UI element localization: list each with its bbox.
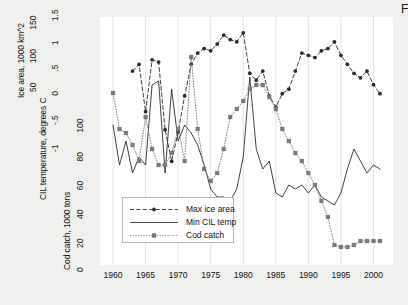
data-point — [137, 62, 141, 66]
legend-label: Max ice area — [186, 203, 235, 216]
data-point — [365, 69, 369, 73]
data-point — [280, 127, 284, 131]
x-tick-2000: 2000 — [358, 270, 388, 280]
data-point — [280, 92, 284, 96]
ice-area-axis-title: Ice area, 1000 km^2 — [16, 23, 26, 98]
data-point — [287, 139, 291, 143]
data-point — [163, 128, 167, 132]
data-point — [170, 159, 174, 163]
data-point — [209, 179, 213, 183]
data-point — [274, 107, 278, 111]
data-point — [300, 51, 304, 55]
data-point — [248, 71, 252, 75]
data-point — [332, 243, 336, 247]
legend-label: Cod catch — [186, 229, 224, 242]
plot-area: Max ice areaMin CIL tempCod catch — [100, 17, 393, 265]
data-point — [365, 239, 369, 243]
data-point — [300, 159, 304, 163]
x-tick-1985: 1985 — [261, 270, 291, 280]
data-point — [235, 107, 239, 111]
x-tick-1965: 1965 — [131, 270, 161, 280]
data-point — [241, 31, 245, 35]
legend-label: Min CIL temp — [186, 216, 236, 229]
data-point — [248, 87, 252, 91]
data-point — [215, 171, 219, 175]
data-point — [228, 115, 232, 119]
data-point — [352, 71, 356, 75]
data-point — [209, 49, 213, 53]
data-point — [241, 99, 245, 103]
x-tick-1960: 1960 — [98, 270, 128, 280]
data-point — [163, 163, 167, 167]
data-point — [372, 83, 376, 87]
data-point — [143, 115, 147, 119]
data-point — [293, 151, 297, 155]
x-tick-1980: 1980 — [228, 270, 258, 280]
data-point — [326, 47, 330, 51]
data-point — [378, 92, 382, 96]
data-point — [333, 40, 337, 44]
data-point — [352, 243, 356, 247]
data-point — [358, 239, 362, 243]
legend-key-glyph — [128, 203, 180, 216]
data-point — [339, 53, 343, 57]
legend-square-marker-icon — [152, 233, 156, 237]
data-point — [170, 151, 174, 155]
data-point — [137, 159, 141, 163]
data-point — [150, 58, 154, 62]
ice-area-axis-ticks: 50 100 150 200 — [28, 0, 38, 92]
data-point — [254, 78, 258, 82]
data-point — [117, 127, 121, 131]
data-point — [157, 163, 161, 167]
data-point — [378, 239, 382, 243]
chart-legend: Max ice areaMin CIL tempCod catch — [122, 197, 234, 243]
data-point — [228, 38, 232, 42]
data-point — [293, 69, 297, 73]
x-tick-1975: 1975 — [196, 270, 226, 280]
data-point — [359, 76, 363, 80]
cil-temperature-axis-ticks: -1 -.5 0 .5 1 1.5 — [50, 9, 60, 152]
legend-circle-marker-icon — [152, 208, 156, 212]
x-tick-1970: 1970 — [163, 270, 193, 280]
data-point — [254, 83, 258, 87]
x-tick-1990: 1990 — [293, 270, 323, 280]
figure-corner-mark: F — [401, 2, 408, 16]
cod-catch-axis-title: Cod catch, 1000 tons — [62, 192, 72, 270]
data-point — [215, 42, 219, 46]
data-point — [144, 110, 148, 114]
data-point — [196, 51, 200, 55]
data-point — [222, 147, 226, 151]
data-point — [339, 245, 343, 249]
data-point — [235, 40, 239, 44]
chart-figure: Ice area, 1000 km^2 50 100 150 200 CIL t… — [0, 0, 408, 305]
data-point — [306, 171, 310, 175]
data-point — [202, 47, 206, 51]
cil-temperature-axis-title: CIL temperature, degrees C — [38, 98, 48, 200]
legend-key-none-icon — [128, 216, 180, 229]
data-point — [306, 53, 310, 57]
data-point — [261, 83, 265, 87]
data-point — [261, 69, 265, 73]
data-point — [222, 33, 226, 37]
data-point — [189, 55, 193, 59]
data-point — [150, 147, 154, 151]
series-line-max-ice-area — [133, 33, 380, 162]
data-point — [131, 69, 135, 73]
data-point — [183, 94, 187, 98]
data-point — [183, 159, 187, 163]
data-point — [313, 183, 317, 187]
data-point — [319, 199, 323, 203]
data-point — [345, 245, 349, 249]
data-point — [157, 60, 161, 64]
data-point — [287, 87, 291, 91]
series-line-min-cil-temp — [113, 77, 380, 205]
data-point — [176, 127, 180, 131]
legend-key-glyph — [128, 216, 180, 229]
data-point — [196, 127, 200, 131]
data-point — [313, 56, 317, 60]
data-point — [130, 143, 134, 147]
data-point — [111, 91, 115, 95]
x-tick-1995: 1995 — [326, 270, 356, 280]
data-point — [202, 167, 206, 171]
data-point — [326, 215, 330, 219]
